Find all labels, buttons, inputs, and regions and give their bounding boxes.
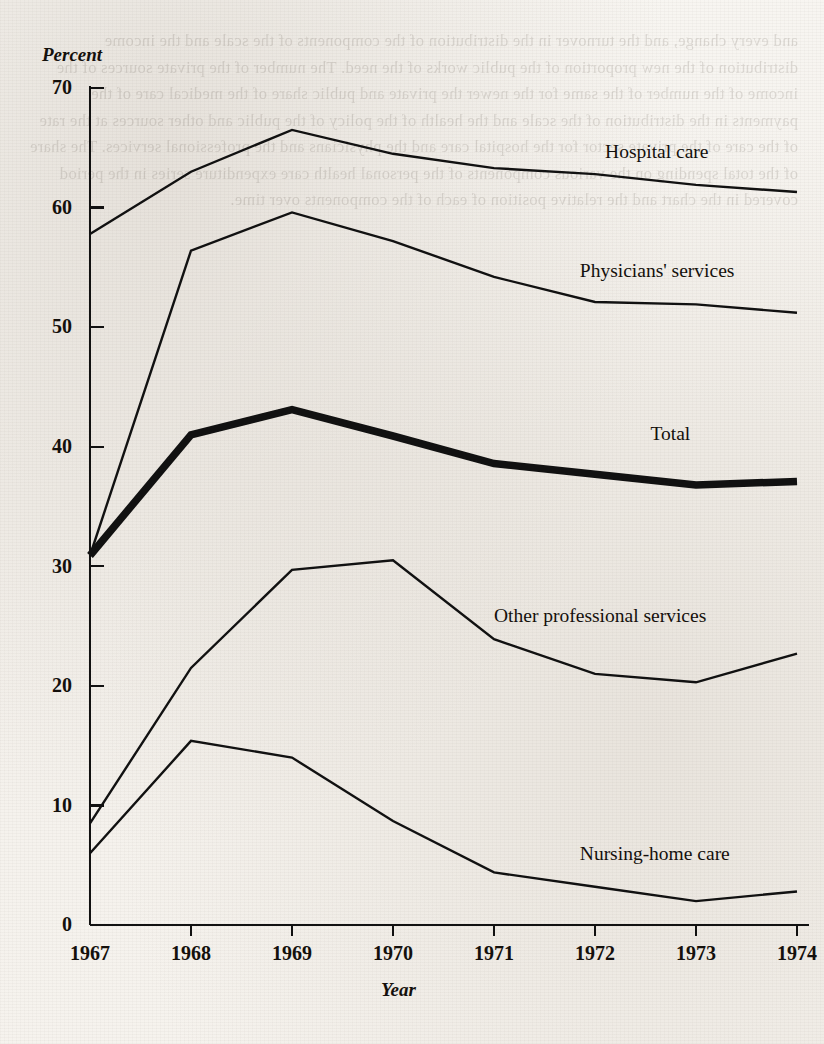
y-tick-label-20: 20 — [32, 674, 72, 697]
x-tick-label-1967: 1967 — [55, 942, 125, 965]
series-label-nursing-home-care: Nursing-home care — [580, 843, 730, 865]
series-line-nursing-home-care — [90, 741, 797, 901]
x-tick-label-1969: 1969 — [257, 942, 327, 965]
x-tick-label-1973: 1973 — [661, 942, 731, 965]
series-label-total: Total — [651, 423, 691, 445]
series-line-total — [90, 410, 797, 556]
series-label-physicians-services: Physicians' services — [580, 260, 735, 282]
x-tick-label-1971: 1971 — [459, 942, 529, 965]
series-label-other-professional-services: Other professional services — [494, 605, 706, 627]
series-label-hospital-care: Hospital care — [605, 141, 708, 163]
axis-lines — [90, 86, 809, 936]
x-tick-label-1974: 1974 — [762, 942, 824, 965]
x-tick-label-1968: 1968 — [156, 942, 226, 965]
y-axis-title: Percent — [42, 44, 102, 66]
y-tick-label-60: 60 — [32, 196, 72, 219]
y-tick-label-40: 40 — [32, 435, 72, 458]
series-line-other-professional-services — [90, 560, 797, 823]
y-tick-label-70: 70 — [32, 76, 72, 99]
y-tick-label-10: 10 — [32, 794, 72, 817]
y-tick-label-0: 0 — [32, 913, 72, 936]
y-tick-label-30: 30 — [32, 555, 72, 578]
x-tick-label-1972: 1972 — [560, 942, 630, 965]
series-lines — [90, 130, 797, 901]
x-tick-label-1970: 1970 — [358, 942, 428, 965]
line-chart: Percent Year 70 60 50 40 30 20 10 0 1967… — [0, 0, 824, 1044]
x-axis-title: Year — [381, 979, 416, 1001]
y-tick-label-50: 50 — [32, 315, 72, 338]
